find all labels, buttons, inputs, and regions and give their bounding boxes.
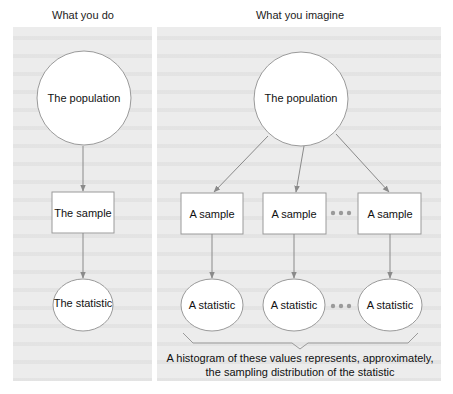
left-population-label: The population [48,92,121,104]
right-population-label: The population [265,92,338,104]
arrow-population-to-sample-3 [336,134,389,192]
histogram-caption: A histogram of these values represents, … [167,351,434,379]
sample-label-3: A sample [367,208,412,220]
statistic-label-3: A statistic [367,299,413,311]
arrow-population-to-sample-2 [296,146,304,192]
ellipsis-dots-icon [331,211,351,215]
left-statistic-label: The statistic [54,297,113,309]
sample-label-2: A sample [271,208,316,220]
ellipsis-dots-icon [331,304,351,308]
heading-what-you-do: What you do [52,9,114,21]
left-sample-label: The sample [54,207,111,219]
arrow-population-to-sample-1 [214,136,268,192]
sample-label-1: A sample [189,208,234,220]
heading-what-you-imagine: What you imagine [256,9,344,21]
caption-line-2: the sampling distribution of the statist… [167,365,434,379]
curly-brace [183,333,418,349]
statistic-label-2: A statistic [271,299,317,311]
statistic-label-1: A statistic [189,299,235,311]
caption-line-1: A histogram of these values represents, … [167,351,434,365]
diagram-canvas [0,0,453,394]
